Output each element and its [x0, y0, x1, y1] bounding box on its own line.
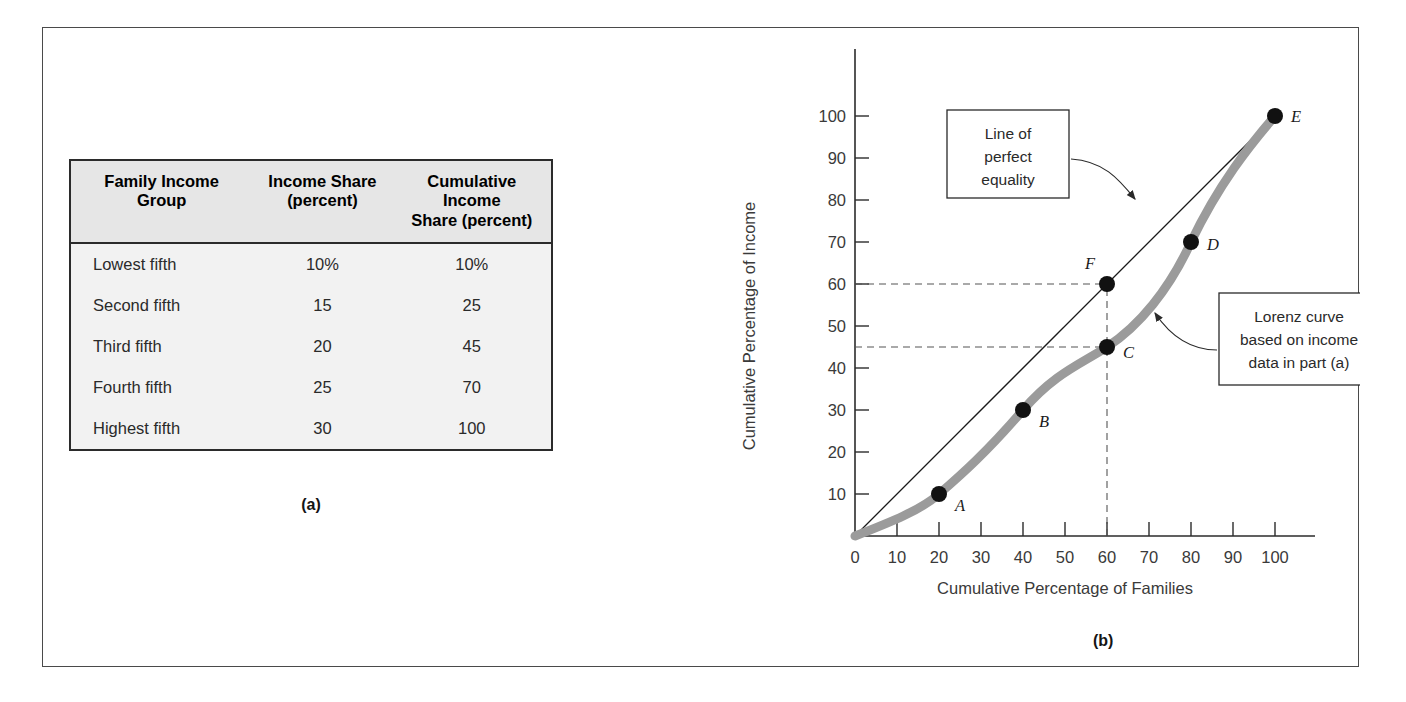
cell-income-share: 10%: [252, 243, 392, 285]
cell-group: Lowest fifth: [70, 243, 252, 285]
panel-a-caption: (a): [69, 496, 553, 514]
y-tick-label-100: 100: [818, 107, 846, 125]
cell-group: Highest fifth: [70, 408, 252, 450]
header-line-2: (percent): [287, 191, 358, 209]
data-point-E[interactable]: [1267, 108, 1283, 124]
panel-a-table-container: Family Income Group Income Share (percen…: [69, 159, 553, 519]
data-point-label-B: B: [1039, 412, 1049, 431]
cell-income-share: 15: [252, 285, 392, 326]
figure-frame: Family Income Group Income Share (percen…: [42, 27, 1359, 667]
x-tick-label-20: 20: [930, 548, 948, 566]
cell-group: Third fifth: [70, 326, 252, 367]
data-point-D[interactable]: [1183, 234, 1199, 250]
x-tick-label-60: 60: [1098, 548, 1116, 566]
x-axis-title: Cumulative Percentage of Families: [937, 579, 1193, 597]
income-distribution-table: Family Income Group Income Share (percen…: [69, 159, 553, 451]
x-tick-label-90: 90: [1224, 548, 1242, 566]
table-row: Third fifth 20 45: [70, 326, 552, 367]
table-body: Lowest fifth 10% 10% Second fifth 15 25 …: [70, 243, 552, 450]
table-row: Lowest fifth 10% 10%: [70, 243, 552, 285]
x-axis-tick-labels: 0 10 20 30 40 50 60 70 80 90 100: [850, 548, 1288, 566]
y-axis-title: Cumulative Percentage of Income: [740, 202, 758, 451]
table-header-row: Family Income Group Income Share (percen…: [70, 160, 552, 243]
cell-group: Second fifth: [70, 285, 252, 326]
y-tick-label-90: 90: [828, 149, 846, 167]
callout-equality-line-3: equality: [981, 171, 1035, 188]
cell-cumulative-share: 70: [393, 367, 552, 408]
x-tick-label-0: 0: [850, 548, 859, 566]
cell-income-share: 20: [252, 326, 392, 367]
y-tick-label-80: 80: [828, 191, 846, 209]
cell-income-share: 25: [252, 367, 392, 408]
callout-arrow-equality: [1071, 159, 1135, 199]
cell-group: Fourth fifth: [70, 367, 252, 408]
y-axis-tick-labels: 100 90 80 70 60 50 40 30 20 10: [818, 107, 846, 503]
table-row: Fourth fifth 25 70: [70, 367, 552, 408]
callout-lorenz-line-2: based on income: [1240, 331, 1358, 348]
data-point-label-A: A: [954, 496, 966, 515]
callout-lorenz-line-3: data in part (a): [1249, 354, 1350, 371]
header-line-1: Income Share: [268, 172, 376, 190]
panel-b-caption: (b): [1093, 632, 1113, 650]
column-header-cumulative-income-share: Cumulative Income Share (percent): [393, 160, 552, 243]
callout-arrow-lorenz: [1155, 313, 1217, 350]
x-tick-label-30: 30: [972, 548, 990, 566]
data-point-B[interactable]: [1015, 402, 1031, 418]
x-tick-label-100: 100: [1261, 548, 1289, 566]
x-tick-label-80: 80: [1182, 548, 1200, 566]
y-tick-label-20: 20: [828, 443, 846, 461]
callout-lorenz-line-1: Lorenz curve: [1254, 308, 1344, 325]
table-row: Highest fifth 30 100: [70, 408, 552, 450]
cell-cumulative-share: 45: [393, 326, 552, 367]
y-axis-ticks: [855, 116, 869, 494]
data-point-label-C: C: [1123, 343, 1135, 362]
column-header-family-income-group: Family Income Group: [70, 160, 252, 243]
x-tick-label-10: 10: [888, 548, 906, 566]
x-tick-label-40: 40: [1014, 548, 1032, 566]
annotation-lorenz-curve: Lorenz curve based on income data in par…: [1155, 293, 1360, 385]
callout-equality-line-1: Line of: [985, 125, 1032, 142]
cell-cumulative-share: 100: [393, 408, 552, 450]
header-line-1: Family Income: [104, 172, 219, 190]
data-point-label-E: E: [1290, 107, 1301, 126]
x-axis-ticks: [897, 522, 1275, 536]
y-tick-label-60: 60: [828, 275, 846, 293]
table-row: Second fifth 15 25: [70, 285, 552, 326]
panel-b-chart-container: 100 90 80 70 60 50 40 30 20 10: [703, 28, 1360, 668]
y-tick-label-30: 30: [828, 401, 846, 419]
x-tick-label-70: 70: [1140, 548, 1158, 566]
callout-equality-line-2: perfect: [984, 148, 1032, 165]
y-tick-label-40: 40: [828, 359, 846, 377]
column-header-income-share: Income Share (percent): [252, 160, 392, 243]
y-tick-label-10: 10: [828, 485, 846, 503]
header-line-2: Share (percent): [411, 211, 532, 229]
cell-cumulative-share: 10%: [393, 243, 552, 285]
data-point-A[interactable]: [931, 486, 947, 502]
data-point-C[interactable]: [1099, 339, 1115, 355]
header-line-1: Cumulative Income: [427, 172, 516, 209]
data-point-label-F: F: [1084, 254, 1096, 273]
y-tick-label-70: 70: [828, 233, 846, 251]
cell-income-share: 30: [252, 408, 392, 450]
y-tick-label-50: 50: [828, 317, 846, 335]
data-point-label-D: D: [1206, 235, 1219, 254]
header-line-2: Group: [137, 191, 187, 209]
x-tick-label-50: 50: [1056, 548, 1074, 566]
table-header: Family Income Group Income Share (percen…: [70, 160, 552, 243]
data-point-F[interactable]: [1099, 276, 1115, 292]
lorenz-curve-chart: 100 90 80 70 60 50 40 30 20 10: [703, 28, 1360, 668]
cell-cumulative-share: 25: [393, 285, 552, 326]
annotation-line-of-perfect-equality: Line of perfect equality: [947, 110, 1135, 199]
